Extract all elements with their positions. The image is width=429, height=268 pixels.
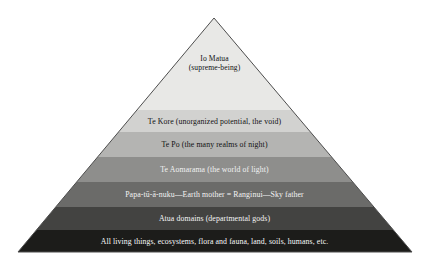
tier-label-layer: Io Matua(supreme-being)Te Kore (unorgani… bbox=[0, 0, 429, 268]
pyramid-tier-7-line-1: All living things, ecosystems, flora and… bbox=[0, 237, 429, 246]
pyramid-tier-6-label: Atua domains (departmental gods) bbox=[0, 214, 429, 223]
pyramid-tier-7-label: All living things, ecosystems, flora and… bbox=[0, 237, 429, 246]
pyramid-tier-1-line-2: (supreme-being) bbox=[0, 64, 429, 73]
pyramid-tier-3-line-1: Te Po (the many realms of night) bbox=[0, 140, 429, 149]
pyramid-tier-4-label: Te Aomarama (the world of light) bbox=[0, 165, 429, 174]
pyramid-tier-5-line-1: Papa-tū-ā-nuku—Earth mother = Ranginui—S… bbox=[0, 190, 429, 199]
pyramid-tier-3-label: Te Po (the many realms of night) bbox=[0, 140, 429, 149]
pyramid-tier-2-label: Te Kore (unorganized potential, the void… bbox=[0, 117, 429, 126]
pyramid-diagram: Io Matua(supreme-being)Te Kore (unorgani… bbox=[0, 0, 429, 268]
pyramid-tier-1-label: Io Matua(supreme-being) bbox=[0, 55, 429, 73]
pyramid-tier-6-line-1: Atua domains (departmental gods) bbox=[0, 214, 429, 223]
pyramid-tier-2-line-1: Te Kore (unorganized potential, the void… bbox=[0, 117, 429, 126]
pyramid-tier-4-line-1: Te Aomarama (the world of light) bbox=[0, 165, 429, 174]
pyramid-tier-5-label: Papa-tū-ā-nuku—Earth mother = Ranginui—S… bbox=[0, 190, 429, 199]
